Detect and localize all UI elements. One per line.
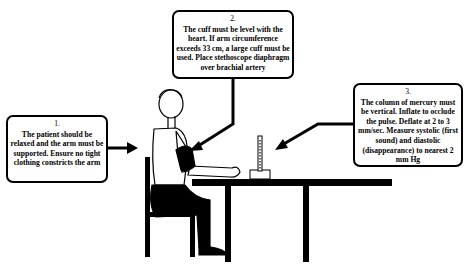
step-3-number: 3. — [357, 87, 459, 97]
arrow-step-2 — [189, 79, 233, 151]
step-2-callout: 2. The cuff must be level with the heart… — [172, 10, 294, 79]
mercury-manometer — [250, 136, 270, 179]
step-1-number: 1. — [10, 119, 104, 129]
arrow-step-3 — [275, 124, 353, 150]
step-3-callout: 3. The column of mercury must be vertica… — [353, 83, 463, 167]
step-2-text: The cuff must be level with the heart. I… — [176, 25, 290, 73]
step-2-number: 2. — [176, 14, 290, 24]
step-3-text: The column of mercury must be vertical. … — [357, 98, 459, 165]
step-1-callout: 1. The patient should be relaxed and the… — [6, 115, 108, 183]
patient-head — [159, 90, 183, 118]
arrow-step-1 — [108, 142, 138, 154]
step-1-text: The patient should be relaxed and the ar… — [10, 130, 104, 168]
